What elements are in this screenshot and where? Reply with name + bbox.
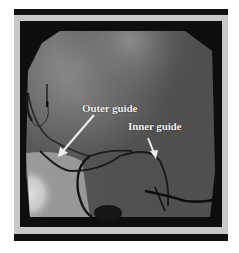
xray-scene (20, 21, 222, 227)
outer-guide-label: Outer guide (82, 102, 137, 114)
bottom-black-bar (14, 234, 228, 241)
top-black-bar (14, 9, 228, 15)
fluoroscopy-image: Outer guide Inner guide (20, 21, 222, 227)
inner-guide-label: Inner guide (128, 120, 181, 132)
